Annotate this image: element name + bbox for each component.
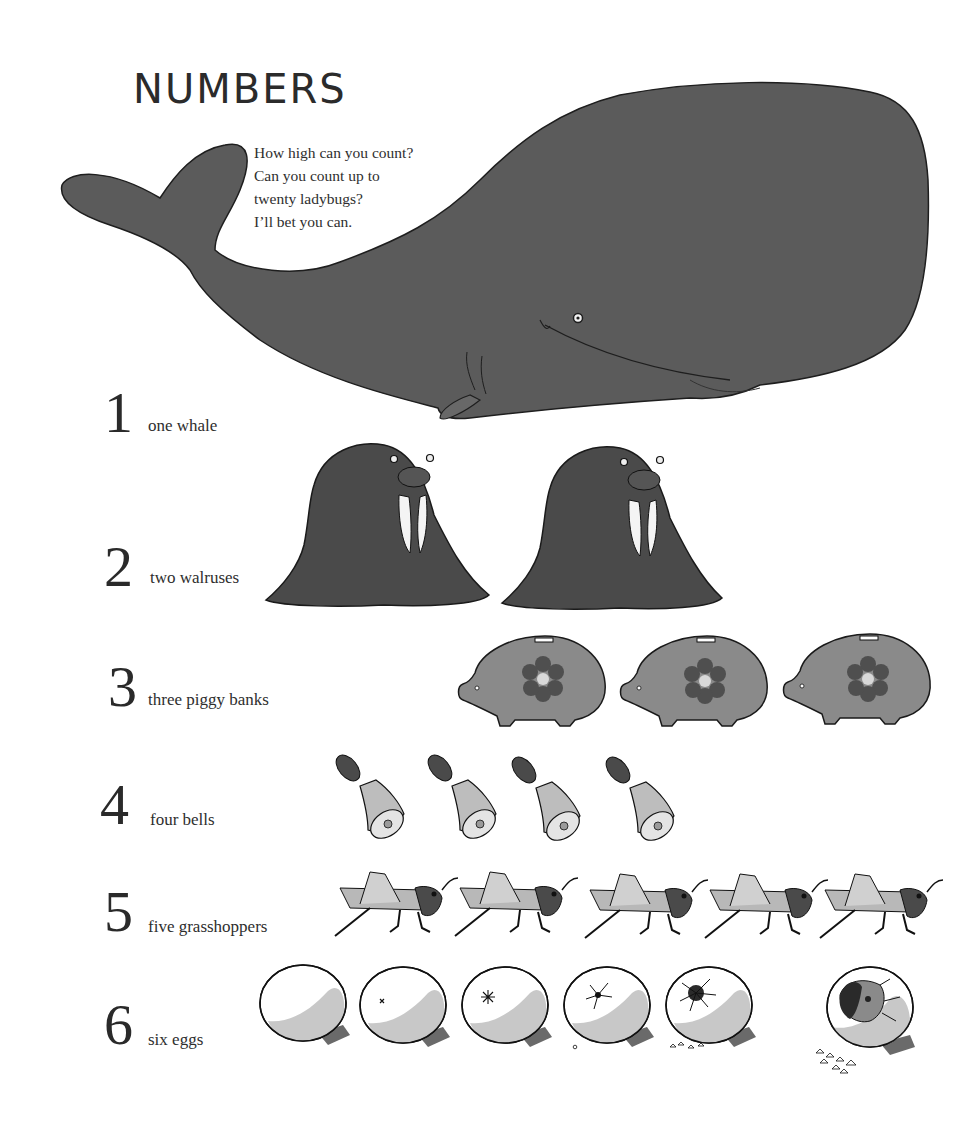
intro-paragraph: How high can you count? Can you count up…: [254, 141, 413, 233]
intro-line: twenty ladybugs?: [254, 187, 413, 210]
row-label-eggs: six eggs: [148, 1030, 203, 1050]
row-label-walruses: two walruses: [150, 568, 239, 588]
egg-icon: [358, 965, 458, 1055]
row-label-bells: four bells: [150, 810, 215, 830]
walrus-icon: [264, 435, 494, 615]
grasshopper-icon: [580, 866, 710, 946]
grasshopper-icon: [450, 864, 580, 944]
egg-icon: [258, 963, 358, 1053]
walrus-icon: [500, 438, 730, 618]
row-label-whale: one whale: [148, 416, 217, 436]
egg-icon: [460, 965, 560, 1055]
egg-icon-hatching: [810, 965, 940, 1075]
bell-icon: [424, 752, 504, 842]
bell-icon: [602, 754, 682, 844]
numeral-3: 3: [108, 658, 137, 716]
piggy-bank-icon: [617, 628, 777, 728]
row-label-grasshoppers: five grasshoppers: [148, 917, 267, 937]
egg-icon: [562, 965, 662, 1065]
intro-line: How high can you count?: [254, 141, 413, 164]
grasshopper-icon: [700, 866, 830, 946]
grasshopper-icon: [330, 864, 460, 944]
grasshopper-icon: [815, 866, 945, 946]
bell-icon: [332, 752, 412, 842]
intro-line: Can you count up to: [254, 164, 413, 187]
piggy-bank-icon: [780, 626, 940, 726]
numeral-2: 2: [104, 538, 133, 596]
intro-line: I’ll bet you can.: [254, 210, 413, 233]
piggy-bank-icon: [455, 628, 615, 728]
numeral-6: 6: [104, 996, 133, 1054]
numeral-1: 1: [104, 384, 133, 442]
bell-icon: [508, 754, 588, 844]
whale-icon: [0, 0, 955, 430]
numeral-5: 5: [104, 883, 133, 941]
egg-icon: [664, 965, 774, 1065]
numeral-4: 4: [100, 776, 129, 834]
row-label-piggy-banks: three piggy banks: [148, 690, 269, 710]
